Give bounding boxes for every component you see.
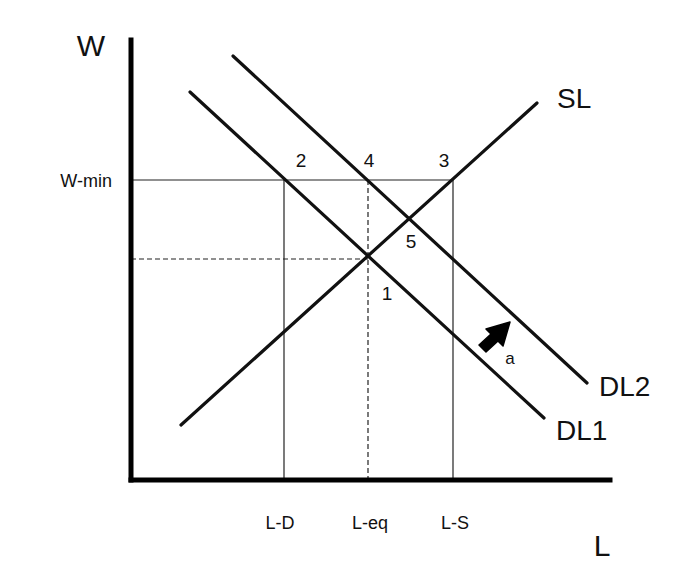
- guide-lines: [131, 180, 453, 480]
- point-label-5: 5: [406, 231, 417, 252]
- labor-market-diagram: W L W-min L-D L-eq L-S SL DL2 DL1 2 4 3 …: [0, 0, 686, 563]
- demand-shift-arrow-icon: [479, 322, 510, 352]
- shift-label-a: a: [505, 349, 515, 368]
- point-label-3: 3: [439, 150, 450, 171]
- supply-curve-sl: [181, 103, 537, 425]
- x-tick-l-d: L-D: [265, 513, 294, 533]
- point-label-1: 1: [382, 283, 393, 304]
- curve-label-sl: SL: [557, 83, 591, 114]
- x-tick-l-eq: L-eq: [352, 513, 388, 533]
- x-axis-label: L: [594, 529, 611, 562]
- curves: [181, 56, 587, 425]
- y-tick-w-min: W-min: [60, 171, 112, 191]
- curve-label-dl1: DL1: [556, 415, 607, 446]
- curve-label-dl2: DL2: [599, 371, 650, 402]
- x-tick-l-s: L-S: [441, 513, 469, 533]
- y-axis-label: W: [77, 29, 106, 62]
- point-label-2: 2: [296, 150, 307, 171]
- point-label-4: 4: [364, 150, 375, 171]
